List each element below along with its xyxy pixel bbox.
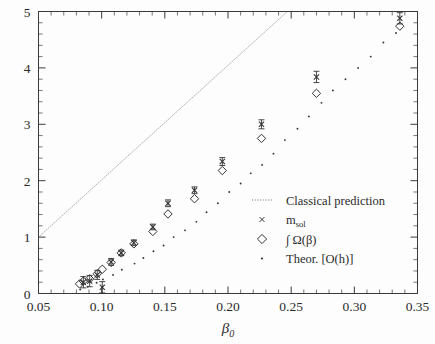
omega-integral-marker <box>218 166 226 174</box>
theory-marker <box>184 229 186 231</box>
theory-marker <box>134 263 136 265</box>
theory-marker <box>261 164 263 166</box>
y-tick-label: 3 <box>24 117 31 132</box>
legend-label: msol <box>286 213 306 229</box>
y-tick-label: 4 <box>24 61 31 76</box>
legend-dot-icon <box>261 257 263 259</box>
plot-frame <box>39 12 418 294</box>
legend-label: Theor. [O(h)] <box>286 252 353 266</box>
legend-label: ∫ Ω(β) <box>285 233 317 248</box>
omega-integral-marker <box>257 134 265 142</box>
theory-marker <box>96 282 98 284</box>
theory-marker <box>308 115 310 117</box>
legend: Classical predictionmsol∫ Ω(β)Theor. [O(… <box>252 194 386 267</box>
theory-marker <box>102 278 104 280</box>
theory-marker <box>370 56 372 58</box>
theory-marker <box>250 172 252 174</box>
theory-marker <box>273 153 275 155</box>
theory-marker <box>206 211 208 213</box>
legend-diamond-icon <box>257 234 266 243</box>
x-tick-label: 0.10 <box>90 299 114 314</box>
y-tick-label: 0 <box>24 287 31 302</box>
theory-marker <box>382 42 384 44</box>
theory-marker <box>217 202 219 204</box>
x-axis-title: β0 <box>221 320 234 339</box>
theory-marker <box>297 128 299 130</box>
y-tick-label: 1 <box>24 230 31 245</box>
classical-prediction-line <box>39 12 288 238</box>
x-tick-label: 0.30 <box>343 299 367 314</box>
theory-marker <box>153 250 155 252</box>
data-layer <box>39 12 405 293</box>
theory-marker <box>345 78 347 80</box>
theory-marker <box>284 139 286 141</box>
figure-container: 0.050.100.150.200.250.300.35012345β0Clas… <box>0 0 435 344</box>
omega-integral-marker <box>164 210 172 218</box>
theory-marker <box>163 245 165 247</box>
x-tick-label: 0.15 <box>153 299 177 314</box>
theory-marker <box>395 32 397 34</box>
legend-label: Classical prediction <box>286 194 386 208</box>
omega-integral-marker <box>312 89 320 97</box>
x-tick-label: 0.25 <box>279 299 303 314</box>
y-tick-label: 5 <box>24 5 31 20</box>
theory-marker <box>332 90 334 92</box>
theory-marker <box>87 286 89 288</box>
omega-integral-marker <box>190 195 198 203</box>
theory-marker <box>228 191 230 193</box>
theory-marker <box>142 257 144 259</box>
theory-marker <box>321 102 323 104</box>
theory-marker <box>357 67 359 69</box>
theory-marker <box>112 274 114 276</box>
theory-marker <box>173 236 175 238</box>
theory-marker <box>79 289 81 291</box>
scatter-plot: 0.050.100.150.200.250.300.35012345β0Clas… <box>0 0 435 344</box>
x-tick-label: 0.35 <box>406 299 430 314</box>
theory-marker <box>195 221 197 223</box>
theory-marker <box>121 269 123 271</box>
x-tick-label: 0.20 <box>216 299 240 314</box>
theory-marker <box>240 183 242 185</box>
y-tick-label: 2 <box>24 174 31 189</box>
